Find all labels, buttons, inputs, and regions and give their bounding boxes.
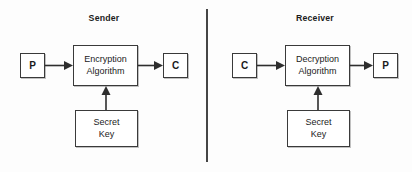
ciphertext-label-receiver: C bbox=[241, 60, 248, 71]
decryption-algorithm-line1: Decryption bbox=[296, 54, 339, 66]
plaintext-label-sender: P bbox=[29, 60, 36, 71]
secret-key-box-sender: Secret Key bbox=[75, 110, 138, 147]
receiver-heading: Receiver bbox=[282, 12, 348, 23]
ciphertext-input-box-receiver: C bbox=[232, 53, 257, 78]
sender-heading: Sender bbox=[75, 12, 134, 23]
secret-key-box-receiver: Secret Key bbox=[287, 110, 350, 147]
plaintext-input-box-sender: P bbox=[20, 53, 45, 78]
arrow-secretkey-to-encryption bbox=[102, 86, 111, 110]
ciphertext-output-box-sender: C bbox=[163, 53, 188, 78]
secret-key-line2-sender: Key bbox=[99, 129, 115, 141]
encryption-algorithm-line2: Algorithm bbox=[86, 66, 124, 78]
plaintext-output-box-receiver: P bbox=[373, 53, 398, 78]
arrow-ciphertext-to-decryption bbox=[257, 61, 285, 70]
panel-divider bbox=[206, 9, 208, 162]
secret-key-line2-receiver: Key bbox=[311, 129, 327, 141]
encryption-algorithm-line1: Encryption bbox=[84, 54, 127, 66]
decryption-algorithm-line2: Algorithm bbox=[298, 66, 336, 78]
arrow-secretkey-to-decryption bbox=[314, 86, 323, 110]
diagram-canvas: Sender P Encryption Algorithm C Secret K… bbox=[0, 0, 412, 172]
ciphertext-label-sender: C bbox=[172, 60, 179, 71]
arrow-decryption-to-plaintext bbox=[350, 61, 373, 70]
decryption-algorithm-box: Decryption Algorithm bbox=[285, 45, 350, 86]
arrow-plaintext-to-encryption bbox=[45, 61, 73, 70]
secret-key-line1-sender: Secret bbox=[93, 117, 119, 129]
arrow-encryption-to-ciphertext bbox=[138, 61, 163, 70]
encryption-algorithm-box: Encryption Algorithm bbox=[73, 45, 138, 86]
plaintext-label-receiver: P bbox=[382, 60, 389, 71]
secret-key-line1-receiver: Secret bbox=[305, 117, 331, 129]
